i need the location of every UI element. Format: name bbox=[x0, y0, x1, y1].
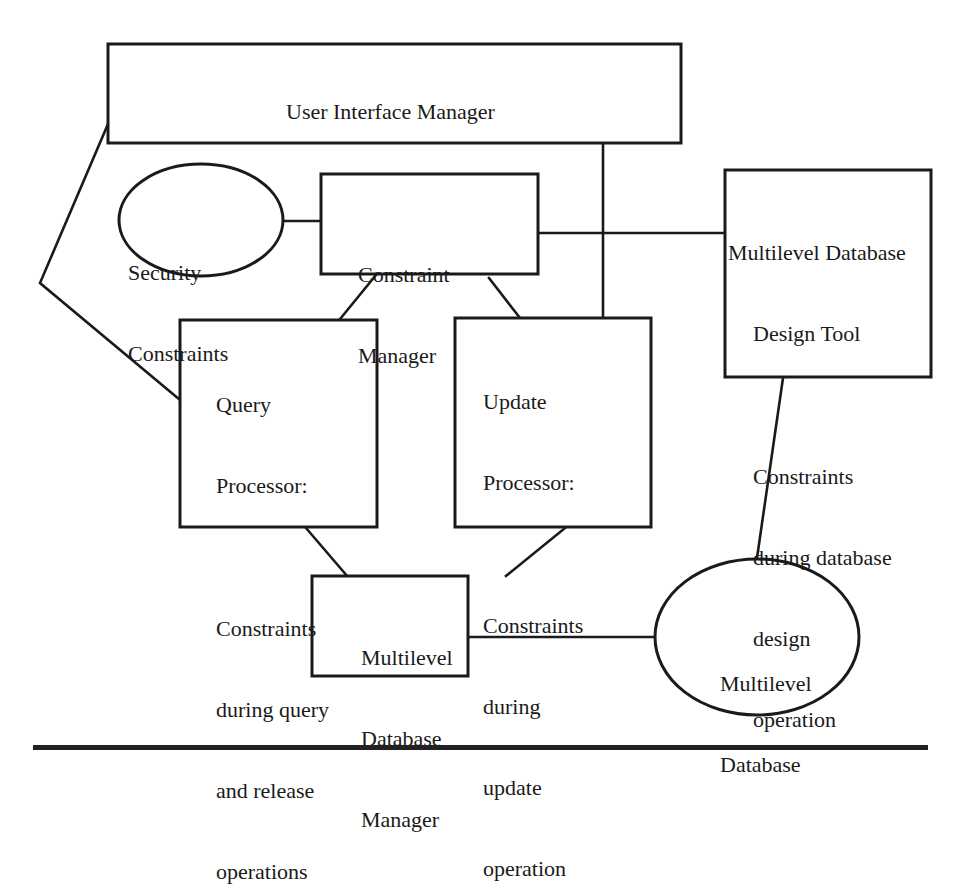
bottom-divider-rule bbox=[33, 745, 928, 750]
label-query-processor: Query Processor: Constraints during quer… bbox=[216, 337, 329, 888]
edge-constraint-manager-to-update-processor bbox=[489, 278, 520, 318]
label-database-manager: Multilevel Database Manager bbox=[361, 590, 453, 860]
update-title-1: Update bbox=[483, 388, 583, 415]
label-constraint-manager: Constraint Manager bbox=[358, 207, 450, 396]
constraint-manager-line-2: Manager bbox=[358, 342, 450, 369]
update-title-2: Processor: bbox=[483, 469, 583, 496]
update-desc-3: update bbox=[483, 774, 583, 801]
query-title-2: Processor: bbox=[216, 472, 329, 499]
security-line-1: Security bbox=[128, 259, 228, 286]
design-tool-desc-2: during database bbox=[728, 544, 906, 571]
update-desc-2: during bbox=[483, 693, 583, 720]
update-desc-1: Constraints bbox=[483, 612, 583, 639]
query-desc-1: Constraints bbox=[216, 615, 329, 642]
label-update-processor: Update Processor: Constraints during upd… bbox=[483, 334, 583, 888]
design-tool-desc-1: Constraints bbox=[728, 463, 906, 490]
db-manager-line-3: Manager bbox=[361, 806, 453, 833]
label-security-constraints: Security Constraints bbox=[128, 205, 228, 394]
security-line-2: Constraints bbox=[128, 340, 228, 367]
label-user-interface-manager: User Interface Manager bbox=[275, 71, 495, 125]
query-title-1: Query bbox=[216, 391, 329, 418]
constraint-manager-line-1: Constraint bbox=[358, 261, 450, 288]
query-desc-3: and release bbox=[216, 777, 329, 804]
database-line-2: Database bbox=[720, 751, 812, 778]
design-tool-title-2: Design Tool bbox=[728, 320, 906, 347]
uim-label-text: User Interface Manager bbox=[286, 99, 495, 124]
design-tool-title-1: Multilevel Database bbox=[728, 239, 906, 266]
update-desc-4: operation bbox=[483, 855, 583, 882]
label-database: Multilevel Database bbox=[720, 616, 812, 805]
database-line-1: Multilevel bbox=[720, 670, 812, 697]
db-manager-line-1: Multilevel bbox=[361, 644, 453, 671]
query-desc-2: during query bbox=[216, 696, 329, 723]
query-desc-4: operations bbox=[216, 858, 329, 885]
